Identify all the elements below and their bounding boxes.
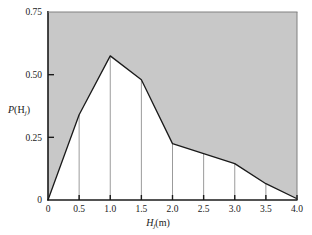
probability-area-chart: 00.250.500.75 00.51.01.52.02.53.03.54.0 … (0, 0, 312, 235)
x-axis-tick-label: 4.0 (291, 204, 303, 214)
y-axis-title-close: ) (27, 104, 30, 116)
x-axis-tick-label: 0.5 (73, 204, 85, 214)
y-axis-tick-label: 0.25 (25, 133, 42, 143)
x-axis-tick-label: 1.5 (135, 204, 147, 214)
x-axis-tick-label: 2.0 (167, 204, 179, 214)
x-axis-title-unit: (m) (155, 217, 169, 229)
y-axis-tick-label: 0.75 (25, 7, 42, 17)
y-axis-title-symbol: P (7, 104, 14, 115)
x-axis-tick-label: 0 (46, 204, 51, 214)
x-axis-tick-label: 3.0 (229, 204, 241, 214)
y-axis-title-open: (H (14, 104, 25, 116)
chart-figure: 00.250.500.75 00.51.01.52.02.53.03.54.0 … (0, 0, 312, 235)
x-axis-tick-labels-group: 00.51.01.52.02.53.03.54.0 (46, 204, 304, 214)
y-axis-title: P(Hj) (7, 104, 30, 117)
x-axis-tick-label: 3.5 (260, 204, 272, 214)
x-axis-tick-label: 2.5 (198, 204, 210, 214)
x-axis-title: Hj(m) (145, 217, 170, 230)
x-axis-tick-label: 1.0 (104, 204, 116, 214)
y-axis-tick-label: 0.50 (25, 70, 42, 80)
y-axis-tick-label: 0 (37, 195, 42, 205)
